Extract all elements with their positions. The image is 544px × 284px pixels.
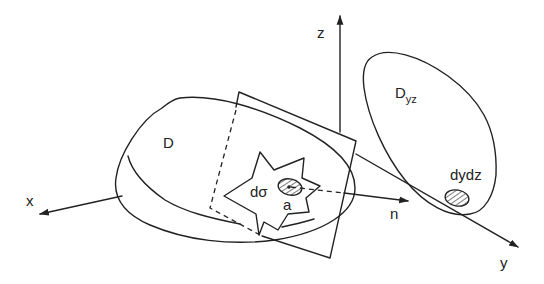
- y-axis-label: y: [500, 254, 508, 271]
- surface-d: D: [116, 97, 355, 242]
- projection-element-hatched-area: [444, 188, 470, 208]
- projection-outline: [363, 52, 496, 214]
- surface-label: D: [163, 134, 174, 151]
- projection-element-label: dydz: [450, 166, 482, 183]
- projection-label-main: D: [395, 84, 406, 101]
- surface-outline: [116, 97, 355, 242]
- surface-element: dσ a: [224, 152, 320, 235]
- z-axis-label: z: [317, 24, 325, 41]
- surface-inner-rim: [128, 156, 240, 224]
- z-axis: z: [317, 16, 340, 132]
- x-axis-label: x: [26, 192, 34, 209]
- projection-label-subscript: yz: [406, 93, 417, 105]
- tangent-plane: [210, 92, 356, 258]
- projection-region-dyz: Dyz dydz: [363, 52, 496, 214]
- point-a-label: a: [283, 196, 292, 213]
- surface-element-star: [224, 152, 320, 235]
- surface-inner-rim-right: [282, 219, 314, 227]
- point-a-dot: [287, 185, 291, 189]
- x-axis: x: [26, 192, 122, 214]
- surface-element-label: dσ: [250, 183, 268, 200]
- surface-integral-diagram: z y x Dyz dydz D: [0, 0, 544, 284]
- normal-label: n: [390, 205, 398, 222]
- y-axis: y: [356, 154, 518, 271]
- projection-label: Dyz: [395, 84, 417, 105]
- plane-visible-edges: [236, 92, 356, 258]
